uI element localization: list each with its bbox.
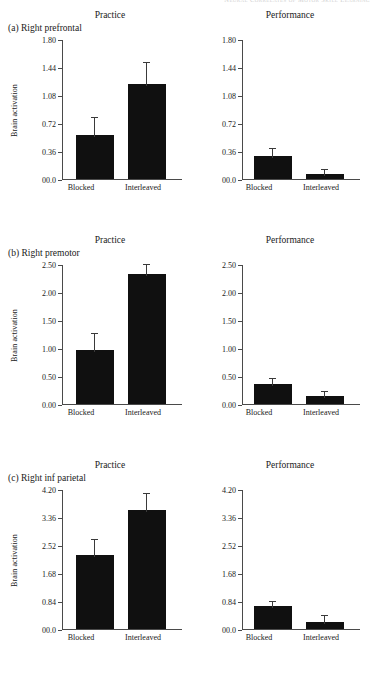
y-axis-line xyxy=(62,40,63,180)
error-bar-cap xyxy=(143,62,150,63)
column-titles-b: Practice Performance xyxy=(0,235,374,249)
error-bar-cap xyxy=(321,391,328,392)
bar-interleaved xyxy=(306,622,344,629)
x-axis-tick-label: Blocked xyxy=(50,633,112,642)
x-axis-line xyxy=(242,179,360,180)
y-axis-tick xyxy=(58,124,62,125)
y-axis-tick-label: 2.52 xyxy=(42,542,56,551)
figure-brain-activation: Practice Performance (a) Right prefronta… xyxy=(0,0,374,690)
y-axis-tick-label: 1.44 xyxy=(222,64,236,73)
error-bar-cap xyxy=(269,378,276,379)
error-bar-cap xyxy=(269,601,276,602)
x-axis-tick-label: Blocked xyxy=(228,183,290,192)
panel-row-b: Practice Performance (b) Right premotor … xyxy=(0,235,374,457)
error-bar-interleaved xyxy=(324,392,325,398)
y-axis-tick xyxy=(238,293,242,294)
plot-area-c-performance: 00.00.841.682.523.364.20BlockedInterleav… xyxy=(242,490,360,630)
y-axis-tick xyxy=(58,152,62,153)
y-axis-label-b-practice: Brain activation xyxy=(8,265,20,405)
panel-label-b: (b) Right premotor xyxy=(8,248,80,258)
x-axis-line xyxy=(62,179,182,180)
y-axis-tick xyxy=(58,518,62,519)
y-axis-tick xyxy=(238,546,242,547)
y-axis-tick xyxy=(238,602,242,603)
y-axis-tick-label: 2.00 xyxy=(42,289,56,298)
x-axis-tick-label: Blocked xyxy=(50,183,112,192)
x-axis-tick-label: Interleaved xyxy=(284,408,358,417)
error-bar-blocked xyxy=(272,379,273,386)
panel-label-a: (a) Right prefrontal xyxy=(8,23,82,33)
y-axis-tick xyxy=(238,96,242,97)
plot-area-a-practice: 00.00.360.721.081.441.80BlockedInterleav… xyxy=(62,40,182,180)
y-axis-tick xyxy=(238,377,242,378)
error-bar-interleaved xyxy=(146,494,147,512)
y-axis-tick xyxy=(58,321,62,322)
y-axis-tick-label: 0.84 xyxy=(222,598,236,607)
y-axis-tick xyxy=(238,180,242,181)
error-bar-interleaved xyxy=(324,616,325,624)
error-bar-cap xyxy=(143,493,150,494)
plot-area-b-practice: 0.000.501.001.502.002.50BlockedInterleav… xyxy=(62,265,182,405)
bar-interleaved xyxy=(306,396,344,404)
chart-a-practice: Brain activation 00.00.360.721.081.441.8… xyxy=(6,40,188,212)
column-titles-a: Practice Performance xyxy=(0,10,374,24)
y-axis-tick xyxy=(238,518,242,519)
y-axis-tick xyxy=(58,68,62,69)
y-axis-line xyxy=(62,265,63,405)
y-axis-tick xyxy=(238,349,242,350)
column-titles-c: Practice Performance xyxy=(0,460,374,474)
plot-area-c-practice: 00.00.841.682.523.364.20BlockedInterleav… xyxy=(62,490,182,630)
x-axis-tick-label: Interleaved xyxy=(106,183,180,192)
y-axis-line xyxy=(242,265,243,405)
error-bar-cap xyxy=(321,615,328,616)
column-title-practice: Practice xyxy=(60,460,160,470)
y-axis-tick xyxy=(58,180,62,181)
panel-label-c: (c) Right inf parietal xyxy=(8,473,86,483)
error-bar-blocked xyxy=(272,149,273,157)
y-axis-tick-label: 2.00 xyxy=(222,289,236,298)
y-axis-label-a-practice: Brain activation xyxy=(8,40,20,180)
y-axis-tick xyxy=(58,349,62,350)
y-axis-tick-label: 1.08 xyxy=(222,92,236,101)
chart-a-performance: 00.00.360.721.081.441.80BlockedInterleav… xyxy=(190,40,372,212)
bar-interleaved xyxy=(128,274,166,404)
error-bar-cap xyxy=(91,117,98,118)
y-axis-tick-label: 0.72 xyxy=(42,120,56,129)
column-title-practice: Practice xyxy=(60,235,160,245)
panel-row-c: Practice Performance (c) Right inf parie… xyxy=(0,460,374,682)
y-axis-tick-label: 1.68 xyxy=(222,570,236,579)
plot-area-b-performance: 0.000.501.001.502.002.50BlockedInterleav… xyxy=(242,265,360,405)
y-axis-tick-label: 2.50 xyxy=(222,261,236,270)
y-axis-tick-label: 0.84 xyxy=(42,598,56,607)
y-axis-tick xyxy=(58,377,62,378)
y-axis-tick xyxy=(238,152,242,153)
bar-blocked xyxy=(76,350,114,404)
y-axis-tick-label: 0.36 xyxy=(42,148,56,157)
error-bar-interleaved xyxy=(324,170,325,177)
x-axis-tick-label: Interleaved xyxy=(284,633,358,642)
y-axis-tick xyxy=(238,321,242,322)
y-axis-tick-label: 1.08 xyxy=(42,92,56,101)
x-axis-tick-label: Blocked xyxy=(228,633,290,642)
y-axis-tick xyxy=(238,405,242,406)
y-axis-tick xyxy=(238,630,242,631)
y-axis-tick-label: 1.50 xyxy=(42,317,56,326)
y-axis-tick xyxy=(58,546,62,547)
column-title-performance: Performance xyxy=(238,10,342,20)
bar-blocked xyxy=(76,135,114,179)
bar-interleaved xyxy=(306,174,344,179)
y-axis-tick-label: 1.00 xyxy=(222,345,236,354)
y-axis-tick xyxy=(58,490,62,491)
y-axis-tick-label: 1.80 xyxy=(222,36,236,45)
y-axis-tick xyxy=(238,124,242,125)
error-bar-cap xyxy=(269,148,276,149)
error-bar-blocked xyxy=(272,602,273,609)
y-axis-label-c-practice: Brain activation xyxy=(8,490,20,630)
error-bar-cap xyxy=(91,539,98,540)
y-axis-tick-label: 4.20 xyxy=(222,486,236,495)
y-axis-tick-label: 4.20 xyxy=(42,486,56,495)
plot-area-a-performance: 00.00.360.721.081.441.80BlockedInterleav… xyxy=(242,40,360,180)
y-axis-tick-label: 0.72 xyxy=(222,120,236,129)
column-title-performance: Performance xyxy=(238,460,342,470)
bar-blocked xyxy=(254,156,292,179)
